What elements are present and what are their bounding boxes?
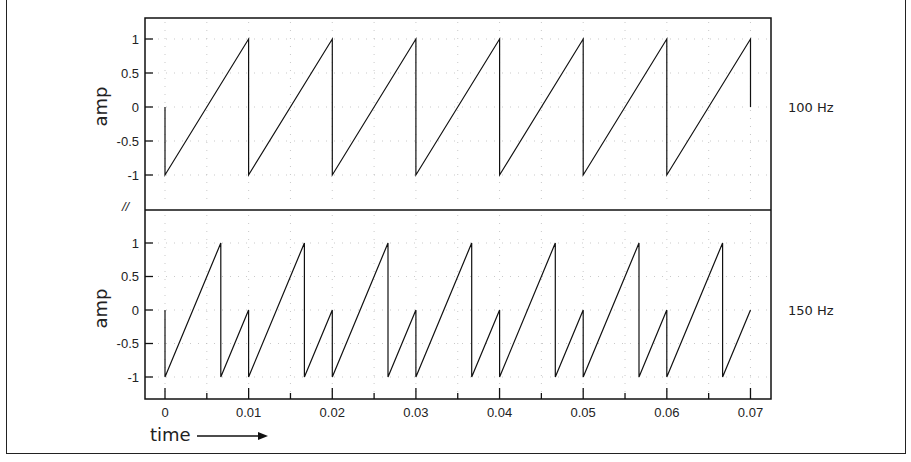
svg-text:-1: -1 <box>127 168 139 183</box>
svg-text:0: 0 <box>161 405 168 420</box>
svg-text:0.07: 0.07 <box>738 405 763 420</box>
plot-frame <box>145 18 771 399</box>
svg-text:-1: -1 <box>127 370 139 385</box>
svg-text:0: 0 <box>132 303 139 318</box>
svg-text:0: 0 <box>132 100 139 115</box>
svg-text:0.01: 0.01 <box>236 405 261 420</box>
svg-text:0.5: 0.5 <box>121 269 139 284</box>
svg-text:1: 1 <box>132 236 139 251</box>
bottom-y-axis-label: amp <box>90 289 111 329</box>
svg-text:0.5: 0.5 <box>121 66 139 81</box>
svg-text:1: 1 <box>132 32 139 47</box>
svg-text:0.06: 0.06 <box>654 405 679 420</box>
svg-text:-0.5: -0.5 <box>117 134 139 149</box>
waveform-chart: 10.50-0.5-110.50-0.5-1 00.010.020.030.04… <box>0 0 911 462</box>
axis-break-mark: // <box>121 199 131 214</box>
x-axis-label: time <box>150 424 191 445</box>
svg-text:-0.5: -0.5 <box>117 336 139 351</box>
bottom-frequency-label: 150 Hz <box>788 303 834 318</box>
svg-text:0.03: 0.03 <box>403 405 428 420</box>
svg-text:0.02: 0.02 <box>320 405 345 420</box>
top-y-axis-label: amp <box>90 87 111 127</box>
top-frequency-label: 100 Hz <box>788 100 834 115</box>
svg-text:0.05: 0.05 <box>571 405 596 420</box>
svg-text:0.04: 0.04 <box>487 405 512 420</box>
time-arrow-icon <box>197 432 268 440</box>
x-axis-ticks: 00.010.020.030.040.050.060.07 <box>161 388 763 420</box>
grid-lines <box>150 22 768 395</box>
